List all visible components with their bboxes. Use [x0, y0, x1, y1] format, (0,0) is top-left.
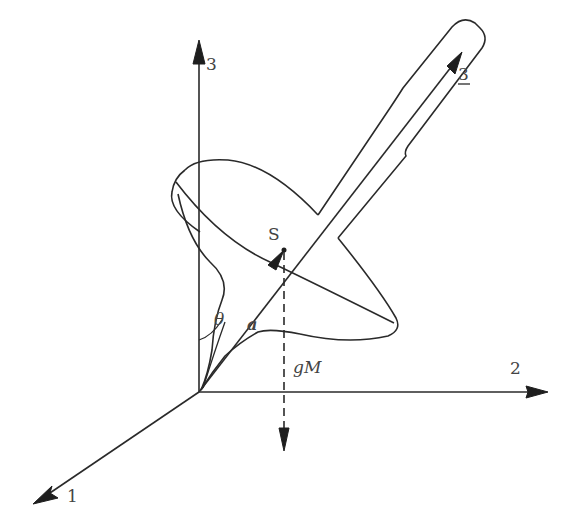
axis-1-line [44, 392, 199, 497]
gravity-force-label: gM [293, 357, 322, 377]
axis-1 [33, 392, 199, 504]
axis-1-label: 1 [67, 486, 78, 506]
center-of-mass-point [282, 248, 287, 253]
body-axis-3-label: 3 [458, 64, 469, 84]
vector-a-label: a [247, 315, 257, 334]
top-disc-front-rim [176, 182, 394, 323]
axis-3 [193, 40, 205, 392]
axis-3-label: 3 [206, 54, 217, 74]
body-axis-3-line [199, 62, 455, 392]
axis-2-arrowhead [526, 386, 548, 398]
top-cone-right [201, 330, 300, 390]
top-disc-right-outline [300, 238, 398, 340]
center-of-mass-label: S [268, 224, 280, 244]
gravity-force-arrowhead [279, 428, 289, 451]
axis-2 [199, 386, 548, 398]
axis-3-arrowhead [193, 40, 205, 64]
theta-label: θ [214, 309, 224, 329]
gravity-force [279, 252, 289, 451]
axis-2-label: 2 [510, 358, 521, 378]
top-disc-upper-rim [185, 160, 318, 215]
axis-1-arrowhead [33, 486, 58, 504]
body-axis-3 [199, 52, 462, 392]
top-body [172, 20, 486, 390]
spinning-top-diagram: 3 2 1 3 S θ [0, 0, 570, 525]
top-cone-left [178, 194, 224, 390]
